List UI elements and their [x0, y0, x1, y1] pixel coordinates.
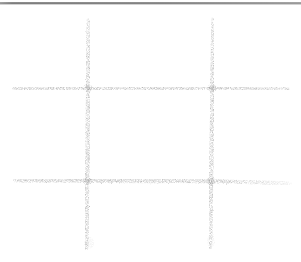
scan-edge-rule — [0, 2, 301, 5]
tic-tac-toe-grid-drawing — [0, 0, 301, 262]
paper-background — [0, 0, 301, 262]
sketch-canvas: A hand-drawn pencil tic-tac-toe hash gri… — [0, 0, 301, 262]
grid-line-horizontal-top — [14, 87, 288, 90]
